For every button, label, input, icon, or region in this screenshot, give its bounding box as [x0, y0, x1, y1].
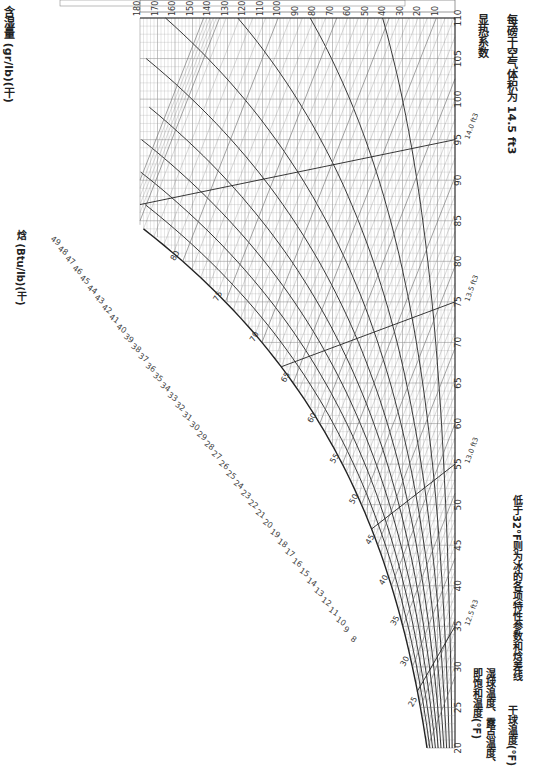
svg-text:105: 105 [453, 50, 463, 67]
svg-text:60: 60 [453, 418, 463, 430]
svg-text:50: 50 [453, 499, 463, 511]
svg-text:30: 30 [453, 661, 463, 673]
svg-text:70: 70 [248, 330, 261, 343]
svg-text:14.0 ft3: 14.0 ft3 [463, 112, 480, 140]
sat-text: 湿球温度、露点温度、即饱和温度(°F) [471, 668, 495, 768]
footnote-text: 低于32°F则为冰的各项特性参数和焓差线 [511, 495, 522, 681]
svg-text:140: 140 [203, 1, 212, 16]
svg-text:55: 55 [328, 452, 341, 465]
hr-gr-text: 含湿量 (gr/lb)(干) [2, 6, 15, 103]
hr-gr-label: 含湿量 (gr/lb)(干) [2, 6, 15, 103]
svg-text:30: 30 [396, 6, 405, 16]
svg-text:40: 40 [378, 6, 387, 16]
svg-text:80: 80 [453, 255, 463, 267]
enthalpy-label: 焓 (Btu/lb)(干) [14, 230, 27, 306]
svg-text:180: 180 [133, 1, 142, 16]
svg-text:95: 95 [453, 134, 463, 145]
svg-text:75: 75 [211, 290, 224, 303]
svg-text:50: 50 [361, 6, 370, 16]
svg-text:130: 130 [221, 1, 230, 16]
svg-text:13.5 ft3: 13.5 ft3 [463, 274, 480, 302]
svg-text:12.5 ft3: 12.5 ft3 [463, 599, 480, 627]
sv-text: 每磅干空气体积为 14.5 ft3 [505, 14, 518, 155]
svg-text:120: 120 [238, 1, 247, 16]
svg-text:25: 25 [406, 695, 419, 708]
footnote: 低于32°F则为冰的各项特性参数和焓差线 [510, 495, 523, 681]
svg-text:65: 65 [453, 377, 463, 388]
shf-label: 显热系数 [476, 14, 489, 58]
svg-text:70: 70 [453, 336, 463, 348]
svg-text:85: 85 [453, 215, 463, 226]
svg-text:90: 90 [453, 174, 463, 186]
svg-text:160: 160 [168, 1, 177, 16]
db-text: 干球温度(°F) [506, 705, 517, 766]
svg-text:60: 60 [306, 411, 319, 424]
sat-label: 湿球温度、露点温度、即饱和温度(°F) [470, 668, 496, 768]
svg-text:80: 80 [308, 6, 317, 16]
svg-text:65: 65 [279, 371, 292, 384]
svg-text:60: 60 [343, 6, 352, 16]
shf-text: 显热系数 [476, 14, 489, 58]
svg-text:45: 45 [364, 533, 377, 546]
svg-text:50: 50 [347, 492, 360, 505]
svg-text:100: 100 [453, 90, 463, 107]
svg-text:170: 170 [151, 1, 160, 16]
sv-label: 每磅干空气体积为 14.5 ft3 [505, 14, 518, 155]
svg-text:25: 25 [453, 702, 463, 713]
svg-text:13.0 ft3: 13.0 ft3 [463, 436, 480, 464]
db-label: 干球温度(°F) [505, 705, 518, 766]
svg-text:150: 150 [186, 1, 195, 16]
svg-text:100: 100 [273, 1, 282, 16]
svg-text:110: 110 [256, 1, 265, 16]
svg-text:90: 90 [291, 6, 300, 16]
svg-text:10: 10 [431, 6, 440, 16]
svg-text:20: 20 [453, 742, 463, 754]
svg-text:75: 75 [453, 296, 463, 307]
svg-text:30: 30 [398, 655, 411, 668]
svg-text:55: 55 [453, 458, 463, 469]
svg-text:35: 35 [453, 621, 463, 632]
svg-text:40: 40 [453, 580, 463, 592]
svg-text:20: 20 [413, 6, 422, 16]
psychrometric-chart: 2025303540455055606570758085909510010511… [0, 0, 533, 770]
svg-text:70: 70 [326, 6, 335, 16]
svg-text:45: 45 [453, 539, 463, 550]
svg-text:8: 8 [349, 634, 358, 644]
enthalpy-text: 焓 (Btu/lb)(干) [15, 230, 26, 306]
